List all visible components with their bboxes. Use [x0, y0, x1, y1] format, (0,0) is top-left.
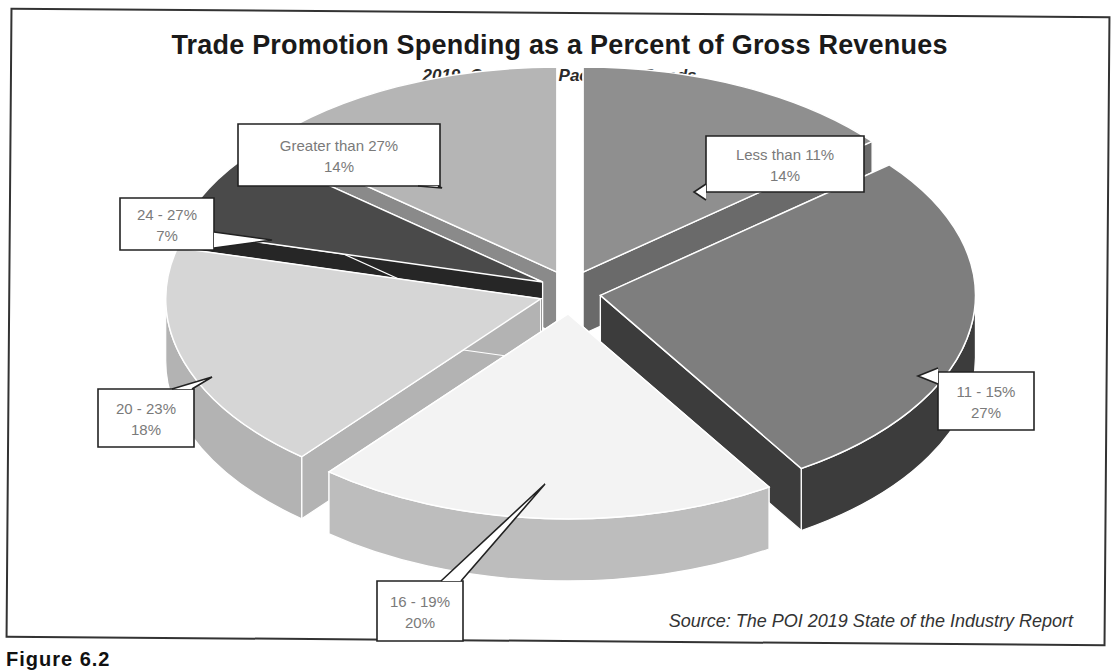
callout-value-label: 20%: [405, 614, 435, 631]
callout-box: [377, 581, 463, 641]
figure-caption-fragment: Figure 6.2: [6, 648, 110, 671]
callout-value-label: 14%: [770, 167, 800, 184]
callout-box: [98, 389, 194, 447]
callout-value-label: 14%: [324, 158, 354, 175]
callout-category-label: Greater than 27%: [280, 137, 398, 154]
callout-box: [938, 372, 1034, 430]
callout-category-label: 20 - 23%: [116, 400, 176, 417]
callout-value-label: 7%: [156, 227, 178, 244]
callout-category-label: 24 - 27%: [137, 206, 197, 223]
callout-category-label: Less than 11%: [736, 146, 834, 163]
callout-value-label: 18%: [131, 421, 161, 438]
source-note: Source: The POI 2019 State of the Indust…: [669, 611, 1073, 632]
callout-1: Less than 11%14%: [694, 136, 864, 200]
callout-category-label: 11 - 15%: [957, 383, 1016, 400]
callout-value-label: 27%: [971, 404, 1001, 421]
callout-6: Greater than 27%14%: [238, 124, 442, 188]
callout-box: [238, 124, 440, 186]
callout-category-label: 16 - 19%: [390, 593, 450, 610]
